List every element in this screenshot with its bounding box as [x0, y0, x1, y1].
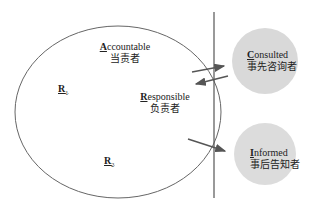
arrow-to-informed — [188, 139, 225, 151]
consulted-label: Consulted 事先咨询者 — [247, 49, 297, 73]
accountable-label: Accountable 当责者 — [90, 41, 160, 65]
informed-label: Informed 事后告知者 — [250, 147, 300, 171]
responsible-label: Responsible 负责者 — [132, 91, 198, 115]
r1-label: R1 — [58, 83, 68, 96]
r2-label: R2 — [104, 155, 114, 168]
arrow-to-consulted — [192, 66, 224, 72]
